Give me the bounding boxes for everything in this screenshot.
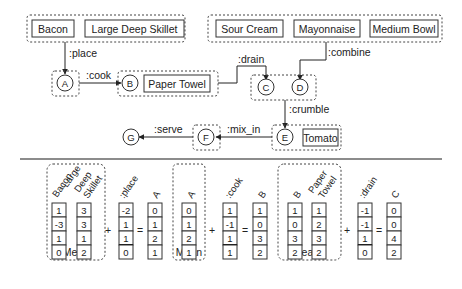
edge-label-serve: :serve [154, 123, 183, 135]
svg-text:1: 1 [123, 233, 128, 244]
svg-text:1: 1 [257, 205, 262, 216]
header-drain: :drain [357, 174, 380, 200]
vector-bacon: 1 -3 1 0 [52, 203, 66, 259]
svg-text:0: 0 [391, 205, 396, 216]
vector-place: -2 1 1 0 [119, 203, 133, 259]
svg-text:3: 3 [292, 233, 297, 244]
ingredient-bacon: Bacon [38, 23, 68, 35]
ingredient-tomato: Tomato [303, 132, 338, 144]
svg-text:1: 1 [56, 205, 61, 216]
edge-label-crumble: :crumble [289, 103, 329, 115]
edge-label-place: :place [69, 47, 97, 59]
svg-text:2: 2 [292, 247, 297, 258]
vector-b-result: 1 0 3 2 [253, 203, 267, 259]
header-a-input: A [185, 188, 198, 200]
svg-text:1: 1 [123, 219, 128, 230]
svg-text:1: 1 [56, 233, 61, 244]
node-f-group: F [193, 125, 220, 150]
header-place: :place [117, 173, 141, 200]
plus-eq1: + [105, 224, 111, 236]
svg-text:3: 3 [81, 219, 86, 230]
svg-text:1: 1 [81, 233, 86, 244]
equals-eq3: = [376, 224, 382, 236]
svg-text:2: 2 [316, 219, 321, 230]
svg-text:1: 1 [186, 219, 191, 230]
svg-text:2: 2 [152, 233, 157, 244]
svg-text:1: 1 [227, 233, 232, 244]
svg-text:1: 1 [292, 205, 297, 216]
header-c-result: C [389, 188, 402, 200]
header-b-input: B [291, 189, 304, 201]
node-b: B [127, 78, 133, 89]
svg-text:2: 2 [257, 247, 262, 258]
ingredient-mayonnaise: Mayonnaise [299, 23, 356, 35]
node-e-group: E Tomato [272, 125, 341, 150]
node-cd-group: C D [251, 75, 316, 100]
equals-eq2: = [242, 224, 248, 236]
svg-text:1: 1 [152, 219, 157, 230]
svg-text:2: 2 [186, 233, 191, 244]
node-f: F [203, 132, 209, 143]
plus-eq2: + [209, 224, 215, 236]
svg-text:0: 0 [257, 219, 262, 230]
vector-a-result: 0 1 2 1 [148, 203, 162, 259]
svg-text:2: 2 [316, 247, 321, 258]
edge-label-drain: :drain [238, 53, 264, 65]
edge-label-combine: :combine [328, 46, 371, 58]
vector-cook: 1 -1 1 1 [223, 203, 237, 259]
ingredient-large-deep-skillet: Large Deep Skillet [92, 23, 178, 35]
svg-text:0: 0 [152, 205, 157, 216]
node-g: G [127, 132, 134, 143]
svg-text:-2: -2 [122, 205, 130, 216]
ingredient-paper-towel: Paper Towel [148, 78, 206, 90]
header-a-result: A [150, 188, 163, 200]
input-group-2: Sour Cream Mayonnaise Medium Bowl [208, 15, 442, 42]
svg-text:4: 4 [391, 233, 396, 244]
header-b-result: B [256, 189, 269, 201]
svg-text:0: 0 [391, 219, 396, 230]
svg-text:-1: -1 [361, 219, 369, 230]
vector-a-input: 0 1 2 1 [182, 203, 196, 259]
edge-label-mix-in: :mix_in [227, 123, 260, 135]
vector-drain: -1 -1 1 0 [358, 203, 372, 259]
header-cook: :cook [223, 175, 245, 200]
node-a-group: A [52, 71, 79, 96]
vector-large-deep-skillet: 3 3 1 2 [77, 203, 91, 259]
input-group-1: Bacon Large Deep Skillet [27, 15, 185, 42]
equals-eq1: = [137, 224, 143, 236]
svg-text:1: 1 [227, 247, 232, 258]
svg-text:1: 1 [362, 233, 367, 244]
svg-text:2: 2 [81, 247, 86, 258]
edge-label-cook: :cook [86, 69, 112, 81]
svg-text:2: 2 [391, 247, 396, 258]
svg-text:0: 0 [123, 247, 128, 258]
vector-b-input: 1 0 3 2 [288, 203, 302, 259]
svg-text:-1: -1 [226, 219, 234, 230]
svg-text:1: 1 [186, 247, 191, 258]
svg-text:1: 1 [227, 205, 232, 216]
svg-text:-1: -1 [361, 205, 369, 216]
node-a: A [62, 78, 69, 89]
svg-text:0: 0 [362, 247, 367, 258]
svg-text:1: 1 [152, 247, 157, 258]
node-e: E [282, 132, 288, 143]
node-b-group: B Paper Towel [118, 71, 218, 96]
node-c: C [263, 82, 270, 93]
svg-text:3: 3 [257, 233, 262, 244]
svg-text:-3: -3 [55, 219, 63, 230]
vector-paper-towel: 1 2 3 2 [312, 203, 326, 259]
vector-c-result: 0 0 4 2 [387, 203, 401, 259]
ingredient-medium-bowl: Medium Bowl [372, 23, 435, 35]
plus-eq3: + [344, 224, 350, 236]
edge-combine-arrow [300, 42, 326, 80]
svg-text:3: 3 [316, 233, 321, 244]
recipe-graph-diagram: Bacon Large Deep Skillet Sour Cream Mayo… [0, 0, 462, 289]
svg-text:3: 3 [81, 205, 86, 216]
svg-text:0: 0 [186, 205, 191, 216]
svg-text:1: 1 [316, 205, 321, 216]
ingredient-sour-cream: Sour Cream [221, 23, 278, 35]
svg-text:0: 0 [56, 247, 61, 258]
node-d: D [297, 82, 304, 93]
svg-text:0: 0 [292, 219, 297, 230]
